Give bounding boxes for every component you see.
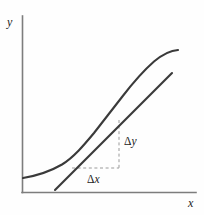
- y-axis-label: y: [7, 16, 12, 28]
- x-axis-label: x: [188, 197, 193, 209]
- derivative-secant-figure: y x Δy Δx: [0, 0, 204, 215]
- secant-line: [55, 73, 172, 190]
- delta-x-label: Δx: [87, 174, 100, 186]
- delta-x-variable: x: [94, 173, 99, 185]
- guides-group: [72, 120, 119, 168]
- delta-y-label: Δy: [124, 136, 137, 148]
- axes-group: [22, 16, 196, 193]
- delta-y-variable: y: [131, 135, 136, 147]
- function-curve: [23, 50, 178, 178]
- chart-canvas: [0, 0, 204, 215]
